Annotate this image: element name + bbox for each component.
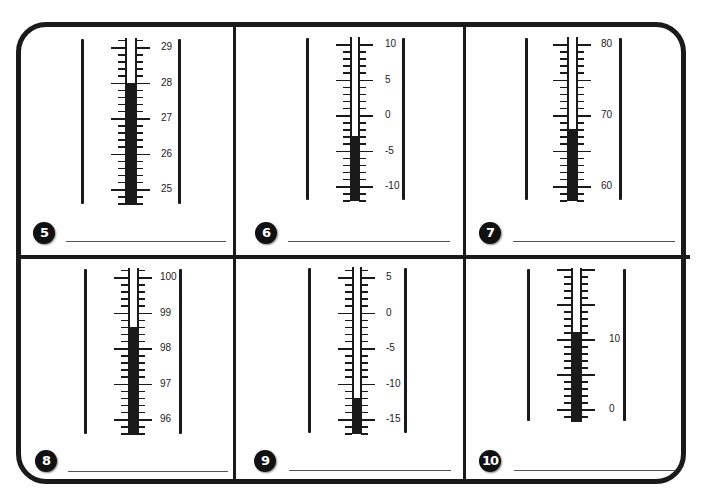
minor-tick [343,108,350,110]
minor-tick [564,416,571,418]
thermometer-left-bar [306,38,309,200]
minor-tick [560,72,567,74]
major-tick [359,44,373,46]
thermometer-left-bar [84,269,87,434]
major-tick [359,151,373,153]
answer-line[interactable] [288,241,450,242]
mercury-column [572,332,581,422]
major-tick [111,154,125,156]
minor-tick [343,65,350,67]
minor-tick [581,332,588,334]
minor-tick [121,376,128,378]
scale-label: 29 [161,42,172,52]
major-tick [557,269,571,271]
major-tick [138,384,152,386]
minor-tick [359,172,366,174]
minor-tick [343,51,350,53]
column-divider-1 [233,24,236,484]
problem-number-badge: 9 [254,450,276,472]
major-tick [338,277,352,279]
minor-tick [136,40,143,42]
minor-tick [121,426,128,428]
major-tick [138,419,152,421]
minor-tick [118,54,125,56]
minor-tick [581,346,588,348]
minor-tick [345,355,352,357]
minor-tick [138,355,145,357]
minor-tick [577,51,584,53]
minor-tick [361,362,368,364]
minor-tick [361,270,368,272]
problem-number-badge: 5 [33,222,55,244]
major-tick [359,80,373,82]
scale-label: 0 [386,308,392,318]
minor-tick [560,136,567,138]
major-tick [111,83,125,85]
minor-tick [343,101,350,103]
minor-tick [564,325,571,327]
minor-tick [361,391,368,393]
minor-tick [361,291,368,293]
minor-tick [581,276,588,278]
minor-tick [345,291,352,293]
minor-tick [577,200,584,202]
minor-tick [138,305,145,307]
minor-tick [345,334,352,336]
minor-tick [359,122,366,124]
answer-line[interactable] [514,470,676,471]
minor-tick [136,132,143,134]
major-tick [581,269,595,271]
minor-tick [345,341,352,343]
minor-tick [564,276,571,278]
mercury-column [126,83,136,206]
minor-tick [136,125,143,127]
major-tick [577,151,591,153]
minor-tick [343,165,350,167]
minor-tick [121,305,128,307]
scale-label: -5 [385,146,394,156]
major-tick [577,44,591,46]
scale-label: -5 [386,343,395,353]
scale-label: 0 [609,404,615,414]
major-tick [553,186,567,188]
scale-label: 28 [161,78,172,88]
answer-line[interactable] [66,241,226,242]
mercury-column [568,129,577,201]
major-tick [361,384,375,386]
minor-tick [560,94,567,96]
scale-label: 26 [161,149,172,159]
major-tick [336,115,350,117]
minor-tick [577,165,584,167]
answer-line[interactable] [289,470,451,471]
minor-tick [343,129,350,131]
minor-tick [577,108,584,110]
scale-label: 99 [160,308,171,318]
minor-tick [345,376,352,378]
scale-label: 60 [601,181,612,191]
minor-tick [581,325,588,327]
major-tick [361,348,375,350]
minor-tick [581,311,588,313]
answer-line[interactable] [68,471,228,472]
minor-tick [564,395,571,397]
mercury-column [129,327,138,435]
minor-tick [560,172,567,174]
minor-tick [359,72,366,74]
minor-tick [343,72,350,74]
minor-tick [361,355,368,357]
major-tick [359,186,373,188]
scale-label: 25 [161,184,172,194]
minor-tick [560,200,567,202]
minor-tick [560,143,567,145]
minor-tick [361,341,368,343]
minor-tick [136,90,143,92]
minor-tick [577,122,584,124]
answer-line[interactable] [513,241,675,242]
thermometer-right-bar [402,38,405,200]
minor-tick [136,146,143,148]
major-tick [338,419,352,421]
minor-tick [581,381,588,383]
major-tick [553,44,567,46]
minor-tick [577,129,584,131]
thermometer-right-bar [623,269,626,421]
